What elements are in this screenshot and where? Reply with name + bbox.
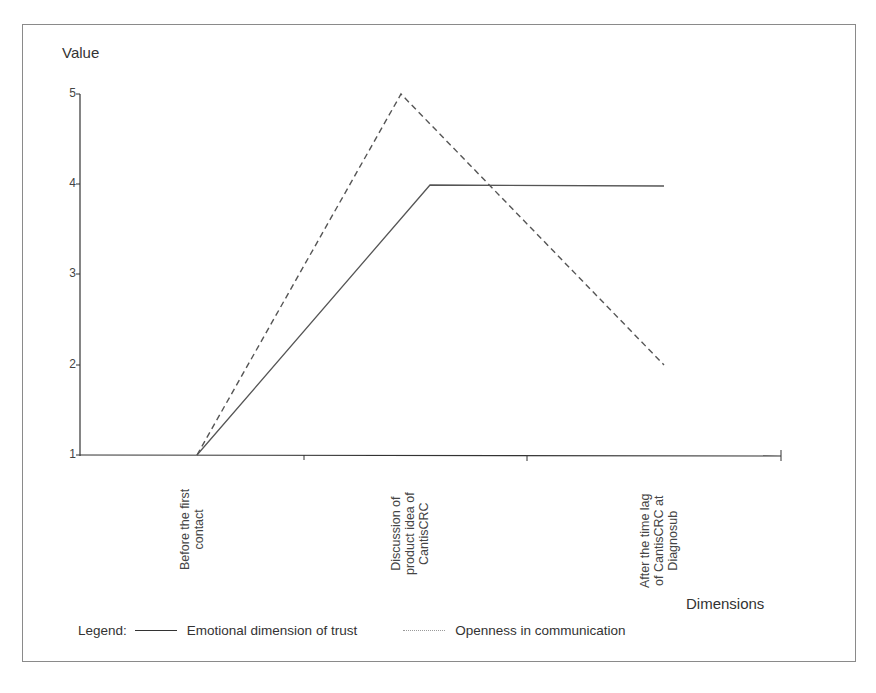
plot-area: [0, 0, 876, 693]
x-axis: [80, 450, 781, 461]
legend-item-emotional-trust: Emotional dimension of trust: [187, 623, 357, 638]
legend-title: Legend:: [78, 623, 127, 638]
x-axis-label: Dimensions: [686, 595, 764, 612]
legend-dotted-line-icon: [403, 630, 445, 631]
x-category-label-3: After the time lag of CantisCRC at Diagn…: [638, 494, 680, 589]
y-axis: [76, 94, 80, 456]
series-openness-in-communication: [197, 94, 664, 455]
x-category-label-1: Before the first contact: [178, 489, 206, 570]
legend: Legend: Emotional dimension of trust Ope…: [78, 621, 626, 639]
legend-item-openness: Openness in communication: [455, 623, 625, 638]
x-category-label-2: Discussion of product idea of CantisCRC: [389, 492, 431, 575]
series-emotional-dimension-of-trust: [197, 185, 664, 455]
legend-solid-line-icon: [135, 630, 177, 631]
